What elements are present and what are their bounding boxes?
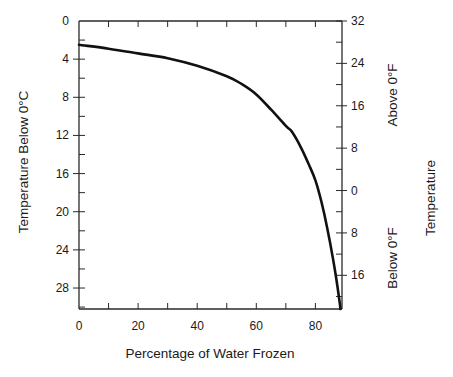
tick-labels: 020406080048121620242832241680816	[56, 14, 365, 333]
series-layer	[79, 45, 341, 309]
freezing-chart: 020406080048121620242832241680816 Percen…	[0, 0, 453, 377]
y2-axis-upper-label: Above 0°F	[385, 63, 400, 126]
y2-tick-label: 0	[351, 184, 358, 198]
y-tick-label: 24	[56, 243, 70, 257]
y2-tick-label: 24	[351, 56, 365, 70]
x-tick-label: 0	[76, 319, 83, 333]
y-axis-title: Temperature Below 0°C	[16, 90, 31, 233]
y-tick-label: 28	[56, 281, 70, 295]
y2-tick-label: 8	[351, 141, 358, 155]
plot-frame	[79, 21, 342, 309]
x-axis-title: Percentage of Water Frozen	[125, 346, 294, 361]
y2-axis-title: Temperature	[423, 160, 438, 236]
y2-tick-label: 16	[351, 99, 365, 113]
y-tick-label: 4	[62, 52, 69, 66]
y-tick-label: 12	[56, 128, 70, 142]
axis-ticks	[73, 21, 347, 309]
x-tick-label: 20	[131, 319, 145, 333]
y2-tick-label: 8	[351, 226, 358, 240]
series-line-freezing-curve	[79, 45, 341, 309]
x-tick-label: 40	[191, 319, 205, 333]
y2-tick-label: 32	[351, 14, 365, 28]
y-tick-label: 16	[56, 167, 70, 181]
y-tick-label: 8	[62, 90, 69, 104]
x-tick-label: 60	[250, 319, 264, 333]
y2-axis-lower-label: Below 0°F	[385, 227, 400, 289]
y2-tick-label: 16	[351, 268, 365, 282]
y-tick-label: 20	[56, 205, 70, 219]
x-tick-label: 80	[309, 319, 323, 333]
y-tick-label: 0	[62, 14, 69, 28]
